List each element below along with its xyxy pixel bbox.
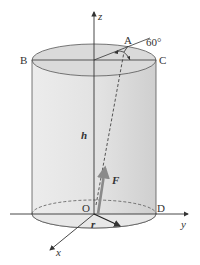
cylinder-diagram: z y x A B C D O 60° h F r xyxy=(0,0,200,265)
point-b-label: B xyxy=(20,54,27,66)
height-label: h xyxy=(81,129,87,141)
radius-label: r xyxy=(91,218,96,230)
z-axis-label: z xyxy=(97,10,103,22)
point-d-label: D xyxy=(157,202,165,214)
angle-label: 60° xyxy=(146,36,161,48)
x-axis-label: x xyxy=(55,246,61,258)
y-axis-label: y xyxy=(180,218,186,230)
origin-label: O xyxy=(82,202,90,214)
point-c-label: C xyxy=(159,54,166,66)
point-a-label: A xyxy=(124,34,132,46)
force-label: F xyxy=(111,174,120,186)
